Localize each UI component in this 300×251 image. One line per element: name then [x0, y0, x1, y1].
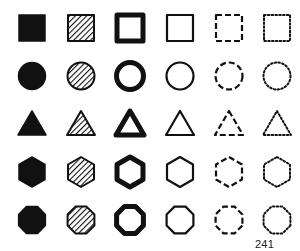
octagon-hatched-icon — [68, 207, 95, 234]
triangle-thick-outline-icon — [116, 111, 144, 135]
triangle-dashed-icon — [215, 111, 243, 135]
hexagon-thick-outline-icon — [117, 157, 143, 187]
square-dashed-icon — [216, 15, 242, 41]
triangle-solid-icon — [18, 111, 46, 135]
hexagon-dashed-icon — [216, 157, 242, 187]
hexagon-dotted-icon — [264, 157, 290, 187]
square-thin-outline-icon — [167, 15, 193, 41]
octagon-solid-icon — [19, 207, 46, 234]
triangle-dotted-icon — [263, 111, 291, 135]
hexagon-hatched-icon — [68, 157, 94, 187]
square-solid-icon — [19, 15, 45, 41]
circle-solid-icon — [19, 63, 46, 90]
circle-dotted-icon — [264, 63, 291, 90]
square-thick-outline-icon — [117, 15, 143, 41]
hexagon-thin-outline-icon — [167, 157, 193, 187]
hexagon-solid-icon — [19, 157, 45, 187]
octagon-thick-outline-icon — [117, 207, 144, 234]
octagon-thin-outline-icon — [167, 207, 194, 234]
circle-thin-outline-icon — [167, 63, 194, 90]
octagon-dashed-icon — [216, 207, 243, 234]
circle-thick-outline-icon — [117, 63, 144, 90]
square-dotted-icon — [264, 15, 290, 41]
octagon-dotted-icon — [264, 207, 291, 234]
shape-style-grid — [0, 0, 300, 251]
square-hatched-icon — [68, 15, 94, 41]
triangle-thin-outline-icon — [166, 111, 194, 135]
circle-dashed-icon — [216, 63, 243, 90]
page-number: 241 — [255, 238, 274, 250]
triangle-hatched-icon — [67, 111, 95, 135]
circle-hatched-icon — [68, 63, 95, 90]
